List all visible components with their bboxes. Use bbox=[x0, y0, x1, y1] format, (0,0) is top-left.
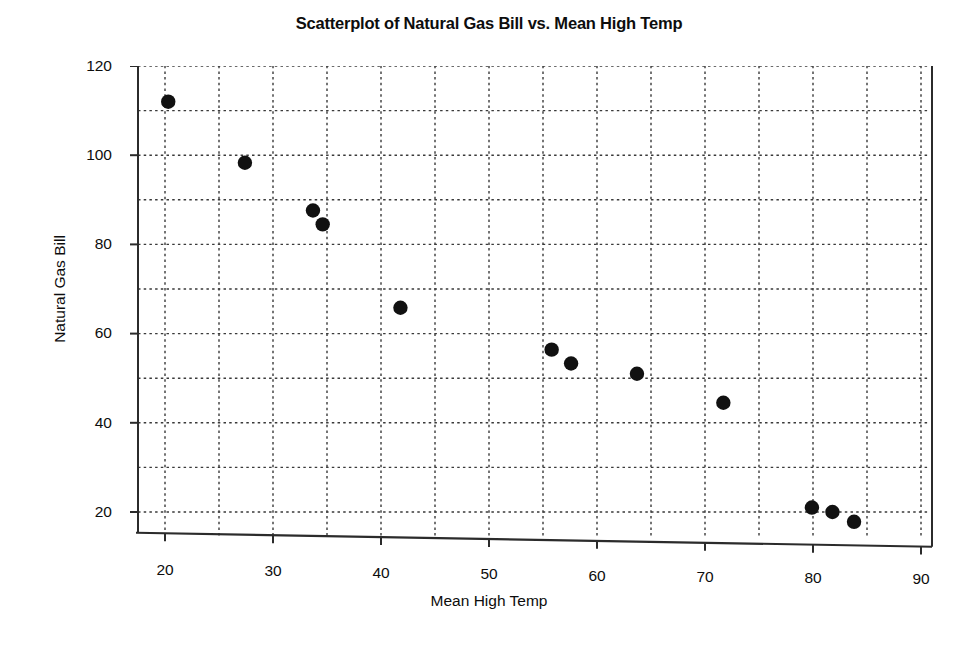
axis-tick-marks bbox=[130, 66, 921, 555]
data-point bbox=[306, 203, 320, 217]
data-points bbox=[161, 94, 861, 529]
data-point bbox=[847, 515, 861, 529]
data-point bbox=[630, 367, 644, 381]
data-point bbox=[544, 342, 558, 356]
plot-svg bbox=[130, 66, 950, 576]
scatterplot-figure: Scatterplot of Natural Gas Bill vs. Mean… bbox=[0, 0, 978, 650]
data-point bbox=[238, 156, 252, 170]
data-point bbox=[393, 301, 407, 315]
data-point bbox=[161, 94, 175, 108]
plot-area bbox=[130, 66, 930, 550]
gridlines-minor bbox=[138, 66, 930, 539]
data-point bbox=[315, 217, 329, 231]
data-point bbox=[716, 396, 730, 410]
data-point bbox=[564, 356, 578, 370]
data-point bbox=[825, 505, 839, 519]
data-point bbox=[805, 500, 819, 514]
